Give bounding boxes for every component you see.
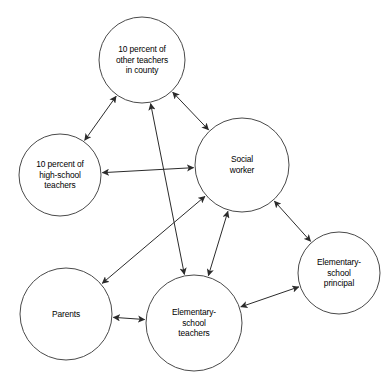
edge-principal-elementary-teachers [241,287,299,307]
sociogram-diagram: 10 percent of other teachers in county10… [0,0,388,382]
node-elementary-school-teachers[interactable] [146,275,242,371]
edge-social-worker-parents [102,196,205,283]
node-high-school-teachers[interactable] [19,134,101,216]
edge-other-teachers-high-school [85,96,116,140]
nodes-layer [19,17,380,371]
edge-social-worker-elementary-teachers [208,211,228,275]
edge-other-teachers-social-worker [173,92,209,130]
node-other-teachers[interactable] [99,17,185,103]
edge-other-teachers-elementary-teachers [151,104,185,275]
diagram-canvas [0,0,388,382]
node-parents[interactable] [20,268,112,360]
edge-parents-elementary-teachers [113,317,144,319]
edge-high-school-social-worker [102,168,193,173]
edge-social-worker-principal [274,201,310,241]
node-elementary-school-principal[interactable] [298,232,380,314]
node-social-worker[interactable] [195,118,289,212]
